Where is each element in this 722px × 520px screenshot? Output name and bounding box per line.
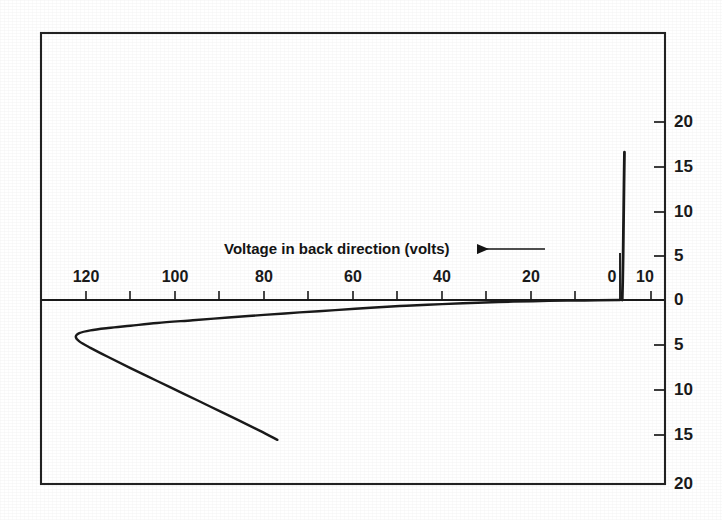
plot-frame [41, 33, 665, 484]
figure-container: 120 100 80 60 40 20 0 10 20 15 10 5 0 5 … [0, 0, 722, 520]
x-tick-label-40: 40 [433, 268, 451, 286]
forward-spike-curve [622, 152, 624, 300]
back-characteristic-curve [76, 300, 620, 440]
x-tick-label-20: 20 [522, 268, 540, 286]
y-tick-label-up-20: 20 [674, 112, 693, 132]
y-tick-label-zero: 0 [674, 290, 683, 310]
x-tick-label-0: 0 [608, 268, 617, 286]
y-tick-label-down-20: 20 [674, 474, 693, 494]
y-tick-label-up-15: 15 [674, 157, 693, 177]
plot-canvas [0, 0, 722, 520]
x-axis-title: Voltage in back direction (volts) [224, 240, 450, 257]
y-tick-label-down-15: 15 [674, 425, 693, 445]
y-tick-label-down-10: 10 [674, 380, 693, 400]
x-tick-label-120: 120 [73, 268, 100, 286]
y-tick-label-up-10: 10 [674, 202, 693, 222]
current-axis-ticks [654, 122, 665, 435]
x-tick-label-100: 100 [162, 268, 189, 286]
x-tick-label-forward-10: 10 [636, 268, 654, 286]
x-tick-label-60: 60 [344, 268, 362, 286]
x-tick-label-80: 80 [255, 268, 273, 286]
y-tick-label-up-5: 5 [674, 246, 683, 266]
y-tick-label-down-5: 5 [674, 335, 683, 355]
x-axis-ticks [86, 291, 651, 300]
